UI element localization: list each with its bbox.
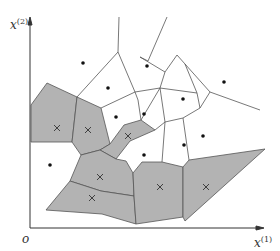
x-axis-arrow-icon [256,226,264,230]
dot-marker [182,143,186,147]
cell-cross-2 [72,97,110,155]
x-axis-label: x(1) [254,236,272,249]
cell-cross-6 [133,162,183,224]
dot-marker [181,97,185,101]
dot-marker [201,134,205,138]
dot-marker [81,61,85,65]
cell-cross-7 [183,149,265,221]
dot-marker [114,115,118,119]
cell-cross-1 [31,83,77,142]
y-axis-label-base: x [10,18,17,32]
dot-marker [142,112,146,116]
shaded-cells [31,83,265,224]
dot-marker [145,64,149,68]
x-axis-label-sup: (1) [261,235,272,244]
y-axis-label-sup: (2) [17,17,28,26]
dot-marker [142,153,146,157]
x-axis-label-base: x [254,236,261,250]
y-axis-label: x(2) [10,18,28,31]
dot-marker [106,86,110,90]
voronoi-diagram [0,0,280,251]
y-axis-arrow-icon [28,17,32,25]
origin-label-text: o [22,232,29,246]
dot-marker [48,163,52,167]
dot-marker [222,80,226,84]
origin-label: o [22,233,29,245]
